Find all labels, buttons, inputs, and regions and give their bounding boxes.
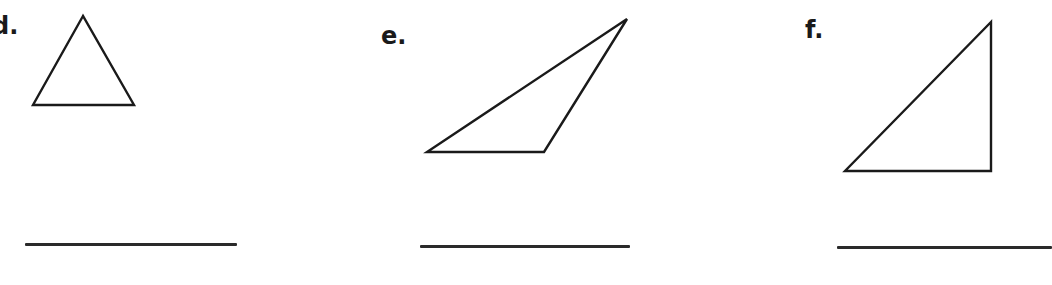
answer-line-f[interactable] [837, 246, 1052, 249]
triangle-f [845, 22, 991, 171]
